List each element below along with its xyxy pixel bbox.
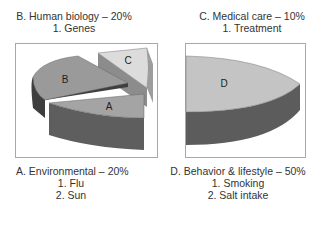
svg-text:B: B — [62, 74, 69, 85]
label-a-item-2: 2. Sun — [16, 189, 126, 201]
label-d: D. Behavior & lifestyle – 50% 1. Smoking… — [170, 165, 306, 201]
svg-text:A: A — [106, 101, 113, 112]
label-a-title: A. Environmental – 20% — [16, 165, 126, 177]
slice-a: A — [49, 94, 144, 150]
slice-d: D — [186, 56, 300, 145]
label-a-item-1: 1. Flu — [16, 177, 126, 189]
label-a: A. Environmental – 20% 1. Flu 2. Sun — [16, 165, 126, 201]
label-d-item-1: 1. Smoking — [170, 177, 306, 189]
label-d-title: D. Behavior & lifestyle – 50% — [170, 165, 306, 177]
svg-text:C: C — [124, 55, 131, 66]
svg-text:D: D — [220, 78, 227, 89]
label-d-item-2: 2. Salt intake — [170, 189, 306, 201]
